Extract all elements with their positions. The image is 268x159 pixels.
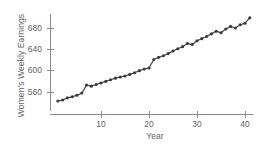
data-point [234,26,237,29]
x-axis-tick-label: 30 [185,119,209,130]
data-point [95,83,98,86]
y-axis-tick-label: 600 [16,65,42,76]
data-point [152,58,155,61]
data-point [191,43,194,46]
data-point [205,35,208,38]
data-point [114,77,117,80]
data-point [128,73,131,76]
data-point [109,78,112,81]
data-point [186,42,189,45]
data-point [219,31,222,34]
data-point [224,28,227,31]
data-point [99,81,102,84]
data-point [66,96,69,99]
data-point [133,71,136,74]
data-point [56,100,59,103]
data-point [210,32,213,35]
data-point [248,16,251,19]
y-axis-tick-label: 560 [16,87,42,98]
data-point [195,39,198,42]
data-point [162,54,165,57]
data-point [239,23,242,26]
data-point [119,76,122,79]
data-point [171,49,174,52]
data-point [75,94,78,97]
data-point [167,52,170,55]
data-point [200,37,203,40]
chart-container: Women's Weekly Earnings Year 56060064068… [0,0,268,159]
data-point [243,22,246,25]
y-axis-tick-label: 680 [16,23,42,34]
data-point [147,66,150,69]
x-axis-tick-label: 40 [233,119,257,130]
data-point [104,80,107,83]
data-point [123,74,126,77]
data-point [85,84,88,87]
data-point [229,25,232,28]
data-point [176,47,179,50]
data-point [90,85,93,88]
data-point [143,68,146,71]
data-point [61,98,64,101]
y-axis-tick-label: 640 [16,44,42,55]
x-axis-tick-label: 10 [89,119,113,130]
data-point [138,69,141,72]
data-point [215,30,218,33]
data-point [80,92,83,95]
data-point [181,45,184,48]
x-axis-tick-label: 20 [137,119,161,130]
data-point [71,95,74,98]
data-point [157,56,160,59]
